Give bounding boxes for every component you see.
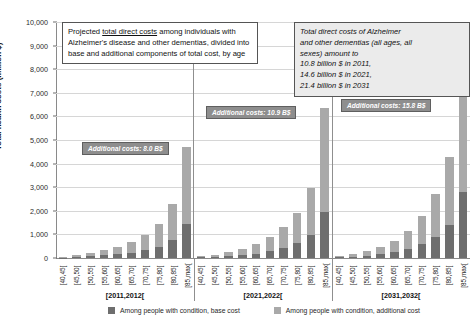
stacked-bar[interactable]	[307, 188, 316, 258]
bar-segment-base-cost[interactable]	[182, 224, 191, 258]
x-axis-tick-label: [60,65[	[249, 259, 263, 289]
group-separator	[332, 259, 333, 301]
bar-segment-base-cost[interactable]	[390, 252, 399, 258]
stacked-bar[interactable]	[155, 224, 164, 258]
stacked-bar[interactable]	[141, 235, 150, 258]
x-axis-tick-label: [70,75[	[277, 259, 291, 289]
bar-segment-base-cost[interactable]	[404, 249, 413, 258]
bar-segment-base-cost[interactable]	[72, 257, 81, 258]
y-axis-tick-label: 10,000	[26, 18, 48, 27]
bar-segment-additional-cost[interactable]	[113, 247, 122, 255]
bar-segment-base-cost[interactable]	[266, 251, 275, 258]
bar-segment-base-cost[interactable]	[335, 257, 344, 258]
x-axis-tick-label: [85,max[	[318, 259, 332, 289]
legend-item[interactable]: Among people with condition, base cost	[108, 307, 240, 314]
stacked-bar[interactable]	[418, 216, 427, 258]
x-axis-tick-label: [50,55[	[222, 259, 236, 289]
bar-segment-additional-cost[interactable]	[141, 235, 150, 251]
bar-segment-base-cost[interactable]	[141, 250, 150, 258]
totals-box-line: and other dementias (all ages, all	[300, 38, 464, 49]
stacked-bar[interactable]	[59, 257, 68, 258]
bar-segment-base-cost[interactable]	[224, 256, 233, 258]
bar-segment-base-cost[interactable]	[363, 256, 372, 258]
x-axis-group-labels: [2011,2012[[2021,2022[[2031,2032[	[56, 289, 470, 301]
bar-segment-additional-cost[interactable]	[279, 227, 288, 248]
stacked-bar[interactable]	[238, 249, 247, 258]
stacked-bar[interactable]	[197, 256, 206, 258]
stacked-bar[interactable]	[376, 247, 385, 258]
bar-segment-base-cost[interactable]	[349, 257, 358, 258]
x-axis-tick-label: [50,55[	[360, 259, 374, 289]
stacked-bar[interactable]	[431, 194, 440, 258]
bar-segment-base-cost[interactable]	[100, 255, 109, 258]
stacked-bar[interactable]	[279, 227, 288, 258]
bar-segment-base-cost[interactable]	[459, 192, 468, 258]
bar-segment-base-cost[interactable]	[86, 256, 95, 258]
y-axis-tick-label: 8,000	[30, 65, 48, 74]
stacked-bar[interactable]	[168, 204, 177, 258]
legend-item[interactable]: Among people with condition, additional …	[274, 307, 420, 314]
bar-segment-base-cost[interactable]	[376, 254, 385, 258]
bar-segment-base-cost[interactable]	[252, 254, 261, 258]
x-axis-group-label: [2021,2022[	[194, 289, 332, 301]
stacked-bar[interactable]	[320, 108, 329, 258]
bar-segment-additional-cost[interactable]	[252, 244, 261, 253]
stacked-bar[interactable]	[404, 231, 413, 258]
bar-segment-additional-cost[interactable]	[155, 224, 164, 247]
bar-segment-additional-cost[interactable]	[390, 241, 399, 253]
bar-segment-base-cost[interactable]	[320, 212, 329, 258]
stacked-bar[interactable]	[182, 147, 191, 258]
bar-segment-base-cost[interactable]	[127, 253, 136, 258]
bar-segment-additional-cost[interactable]	[127, 242, 136, 253]
stacked-bar[interactable]	[335, 256, 344, 258]
legend-label: Among people with condition, base cost	[120, 307, 240, 314]
bar-segment-base-cost[interactable]	[431, 237, 440, 258]
stacked-bar[interactable]	[349, 254, 358, 258]
bar-segment-base-cost[interactable]	[307, 235, 316, 258]
stacked-bar[interactable]	[72, 255, 81, 258]
x-axis-tick-label: [85,max[	[180, 259, 194, 289]
stacked-bar[interactable]	[127, 242, 136, 258]
bar-segment-base-cost[interactable]	[197, 257, 206, 258]
stacked-bar[interactable]	[252, 244, 261, 258]
bar-segment-additional-cost[interactable]	[266, 237, 275, 251]
x-axis-tick-label: [40,45[	[194, 259, 208, 289]
x-axis-tick-label: [80,85[	[442, 259, 456, 289]
x-label-group: [40,45[[45,50[[50,55[[55,60[[60,65[[65,7…	[56, 259, 194, 289]
bar-segment-base-cost[interactable]	[155, 247, 164, 258]
stacked-bar[interactable]	[211, 255, 220, 258]
bar-slot[interactable]	[263, 22, 277, 258]
legend-swatch-icon	[108, 307, 115, 314]
y-axis-tick-label: 9,000	[30, 41, 48, 50]
bar-segment-additional-cost[interactable]	[293, 213, 302, 243]
stacked-bar[interactable]	[293, 213, 302, 258]
bar-segment-additional-cost[interactable]	[307, 188, 316, 234]
bar-segment-base-cost[interactable]	[113, 254, 122, 258]
bar-segment-additional-cost[interactable]	[445, 157, 454, 225]
stacked-bar[interactable]	[113, 247, 122, 258]
bar-segment-additional-cost[interactable]	[182, 147, 191, 224]
stacked-bar[interactable]	[363, 251, 372, 258]
bar-segment-additional-cost[interactable]	[404, 231, 413, 249]
stacked-bar[interactable]	[266, 237, 275, 258]
bar-segment-base-cost[interactable]	[293, 243, 302, 258]
y-axis-tick-label: 4,000	[30, 159, 48, 168]
bar-segment-additional-cost[interactable]	[431, 194, 440, 236]
stacked-bar[interactable]	[86, 253, 95, 258]
bar-segment-base-cost[interactable]	[168, 240, 177, 258]
bar-segment-base-cost[interactable]	[279, 248, 288, 258]
bar-segment-additional-cost[interactable]	[376, 247, 385, 254]
bar-segment-base-cost[interactable]	[238, 255, 247, 258]
bar-slot[interactable]	[277, 22, 291, 258]
stacked-bar[interactable]	[100, 250, 109, 258]
bar-segment-additional-cost[interactable]	[418, 216, 427, 244]
bar-segment-base-cost[interactable]	[211, 257, 220, 258]
stacked-bar[interactable]	[390, 241, 399, 258]
bar-segment-base-cost[interactable]	[418, 244, 427, 258]
x-axis-tick-label: [60,65[	[387, 259, 401, 289]
bar-segment-additional-cost[interactable]	[320, 108, 329, 212]
stacked-bar[interactable]	[445, 157, 454, 258]
bar-segment-additional-cost[interactable]	[168, 204, 177, 240]
bar-segment-base-cost[interactable]	[445, 225, 454, 259]
stacked-bar[interactable]	[224, 252, 233, 258]
